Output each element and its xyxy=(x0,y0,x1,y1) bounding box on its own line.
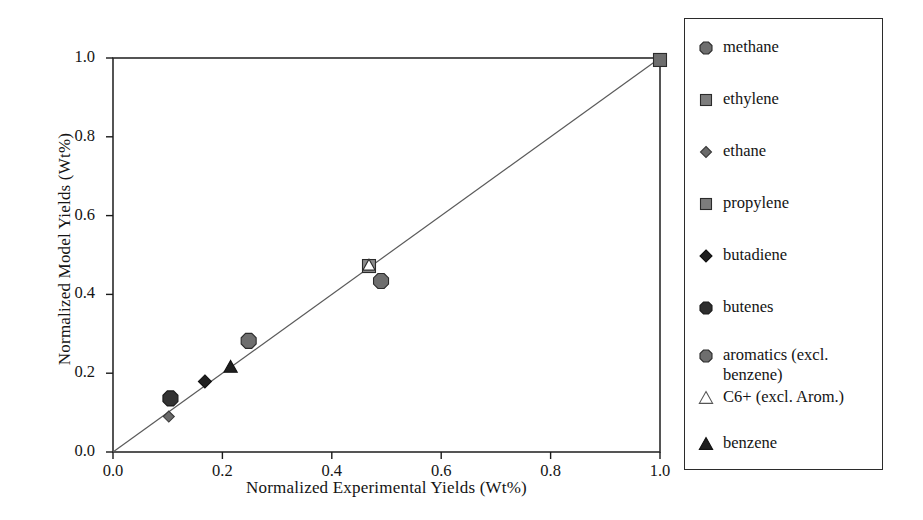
x-tick-label: 0.8 xyxy=(521,461,581,481)
legend-marker-shape xyxy=(701,199,712,210)
legend-marker-icon xyxy=(697,345,719,365)
legend-item-label: ethane xyxy=(719,141,766,161)
legend-marker-icon xyxy=(697,37,719,57)
legend-item-label: C6+ (excl. Arom.) xyxy=(719,387,844,407)
legend: methaneethyleneethanepropylenebutadieneb… xyxy=(684,18,883,470)
y-tick-label: 0.4 xyxy=(35,283,95,303)
legend-marker-icon xyxy=(697,297,719,317)
data-point-ethane xyxy=(163,411,174,422)
x-tick-label: 1.0 xyxy=(630,461,690,481)
y-tick-label: 0.0 xyxy=(35,441,95,461)
parity-reference-line xyxy=(113,58,660,452)
x-tick-label: 0.0 xyxy=(83,461,143,481)
plot-canvas xyxy=(0,0,680,520)
data-point-benzene xyxy=(224,360,237,372)
legend-marker-icon xyxy=(697,193,719,213)
y-axis-title: Normalized Model Yields (Wt%) xyxy=(55,19,75,479)
x-tick-label: 0.6 xyxy=(411,461,471,481)
legend-item-label: methane xyxy=(719,37,779,57)
data-point-ethylene xyxy=(654,53,667,66)
legend-marker-shape xyxy=(700,42,712,54)
legend-item-butenes[interactable]: butenes xyxy=(697,297,882,317)
legend-item-propylene[interactable]: propylene xyxy=(697,193,882,213)
legend-marker-icon xyxy=(697,433,719,453)
legend-marker-shape xyxy=(699,438,712,450)
legend-marker-icon xyxy=(697,245,719,265)
legend-item-aromatics-excl-benzene[interactable]: aromatics (excl. benzene) xyxy=(697,345,882,385)
x-tick-label: 0.4 xyxy=(302,461,362,481)
data-point-butadiene xyxy=(198,375,211,388)
legend-item-methane[interactable]: methane xyxy=(697,37,882,57)
data-point-butenes xyxy=(163,391,178,406)
y-tick-label: 0.2 xyxy=(35,362,95,382)
legend-item-label: benzene xyxy=(719,433,777,453)
plot-region: Normalized Experimental Yields (Wt%) Nor… xyxy=(0,0,680,520)
parity-chart-figure: Normalized Experimental Yields (Wt%) Nor… xyxy=(0,0,923,520)
legend-marker-icon xyxy=(697,89,719,109)
legend-marker-shape xyxy=(699,392,712,404)
legend-item-label: butadiene xyxy=(719,245,787,265)
x-axis-title: Normalized Experimental Yields (Wt%) xyxy=(113,478,660,498)
x-tick-label: 0.2 xyxy=(192,461,252,481)
y-tick-label: 1.0 xyxy=(35,47,95,67)
legend-marker-icon xyxy=(697,141,719,161)
legend-marker-shape xyxy=(700,302,712,314)
y-tick-label: 0.8 xyxy=(35,126,95,146)
legend-item-label: aromatics (excl. benzene) xyxy=(719,345,882,385)
legend-item-butadiene[interactable]: butadiene xyxy=(697,245,882,265)
legend-item-label: butenes xyxy=(719,297,773,317)
y-tick-label: 0.6 xyxy=(35,205,95,225)
legend-marker-shape xyxy=(701,147,712,158)
legend-marker-shape xyxy=(700,250,712,262)
legend-marker-shape xyxy=(701,95,712,106)
data-point-aromatics-excl-benzene- xyxy=(241,333,256,348)
legend-item-benzene[interactable]: benzene xyxy=(697,433,882,453)
legend-item-ethane[interactable]: ethane xyxy=(697,141,882,161)
data-point-methane xyxy=(374,274,389,289)
legend-item-c6-excl-arom[interactable]: C6+ (excl. Arom.) xyxy=(697,387,882,407)
legend-marker-icon xyxy=(697,387,719,407)
legend-item-label: ethylene xyxy=(719,89,779,109)
legend-item-label: propylene xyxy=(719,193,789,213)
legend-marker-shape xyxy=(700,350,712,362)
legend-item-ethylene[interactable]: ethylene xyxy=(697,89,882,109)
